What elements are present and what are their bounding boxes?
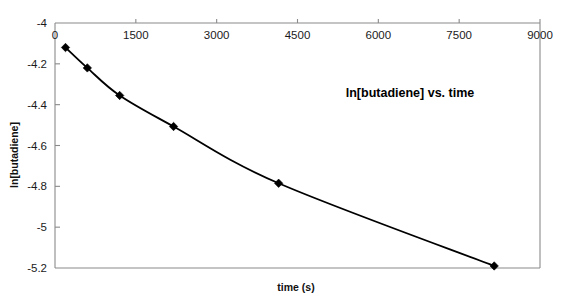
data-point-marker [490, 262, 498, 270]
y-tick-label: -4.8 [27, 180, 47, 192]
y-tick-label: -5.2 [27, 262, 47, 274]
y-axis-tick-labels: -4-4.2-4.4-4.6-4.8-5-5.2 [27, 17, 47, 274]
data-point-markers [61, 43, 498, 270]
chart-container: 0150030004500600075009000 -4-4.2-4.4-4.6… [0, 0, 566, 305]
data-series-line [66, 48, 495, 266]
x-tick-label: 7500 [446, 29, 472, 41]
y-axis-title: ln[butadiene] [8, 122, 20, 188]
x-axis-ticks [136, 19, 540, 23]
x-tick-label: 9000 [527, 29, 553, 41]
y-tick-label: -4.2 [27, 58, 47, 70]
y-tick-label: -4.6 [27, 140, 47, 152]
y-tick-label: -5 [37, 221, 47, 233]
y-tick-label: -4.4 [27, 99, 47, 111]
x-axis-title: time (s) [277, 281, 314, 293]
y-axis-ticks [55, 64, 60, 227]
x-tick-label: 6000 [366, 29, 392, 41]
data-point-marker [274, 179, 282, 187]
y-tick-label: -4 [37, 17, 48, 29]
x-tick-label: 0 [52, 29, 58, 41]
x-tick-label: 1500 [123, 29, 149, 41]
plot-frame [55, 23, 540, 268]
x-tick-label: 4500 [285, 29, 311, 41]
x-axis-tick-labels: 0150030004500600075009000 [52, 29, 553, 41]
data-point-marker [169, 122, 177, 130]
line-chart: 0150030004500600075009000 -4-4.2-4.4-4.6… [0, 0, 566, 305]
x-tick-label: 3000 [204, 29, 230, 41]
chart-title: ln[butadiene] vs. time [346, 86, 475, 100]
